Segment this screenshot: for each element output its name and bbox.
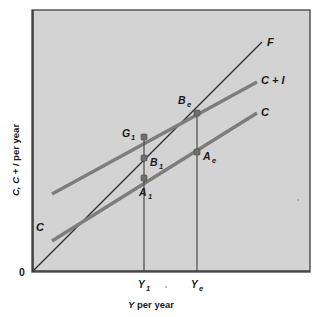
point-a1	[141, 175, 147, 181]
x-axis-label-rest: per year	[134, 299, 174, 310]
point-be	[194, 110, 200, 116]
point-label-ae-base: A	[202, 150, 211, 162]
y-axis-label: C, C + I per year	[10, 124, 21, 196]
point-label-be-base: B	[178, 94, 186, 106]
curve-label-c-left: C	[36, 221, 45, 233]
point-label-b1-sub: 1	[159, 162, 163, 171]
point-label-g1-base: G	[122, 127, 130, 139]
origin-label: 0	[19, 266, 25, 278]
xtick-y1: Y 1	[138, 279, 150, 293]
y-axis-label-italic: C, C + I	[10, 163, 21, 196]
point-label-be-sub: e	[187, 100, 191, 109]
xtick-y1-base: Y	[138, 279, 146, 290]
point-ae	[194, 149, 200, 155]
point-g1	[141, 134, 147, 140]
plot-background	[32, 10, 310, 272]
xtick-y1-sub: 1	[146, 284, 150, 293]
point-label-g1-sub: 1	[131, 133, 135, 142]
xtick-ye-sub: e	[199, 284, 203, 293]
keynesian-cross-chart: F C + I C C G 1 B 1 A 1 B e A e 0 Y	[0, 0, 333, 317]
point-label-b1-base: B	[150, 156, 158, 168]
point-label-ae-sub: e	[212, 156, 216, 165]
x-axis-label: Y per year	[128, 299, 174, 310]
y-axis-label-rest: per year	[10, 124, 21, 164]
xtick-ye: Y e	[191, 279, 203, 293]
point-label-a1-sub: 1	[148, 192, 152, 201]
point-b1	[141, 155, 147, 161]
figure-container: F C + I C C G 1 B 1 A 1 B e A e 0 Y	[0, 0, 333, 317]
curve-label-c-plus-i: C + I	[261, 74, 285, 86]
scan-speck-2	[165, 286, 167, 288]
xtick-ye-base: Y	[191, 279, 199, 290]
curve-label-f: F	[267, 36, 274, 48]
curve-label-c-right: C	[261, 106, 270, 118]
scan-speck	[297, 199, 299, 201]
point-label-a1-base: A	[138, 186, 147, 198]
